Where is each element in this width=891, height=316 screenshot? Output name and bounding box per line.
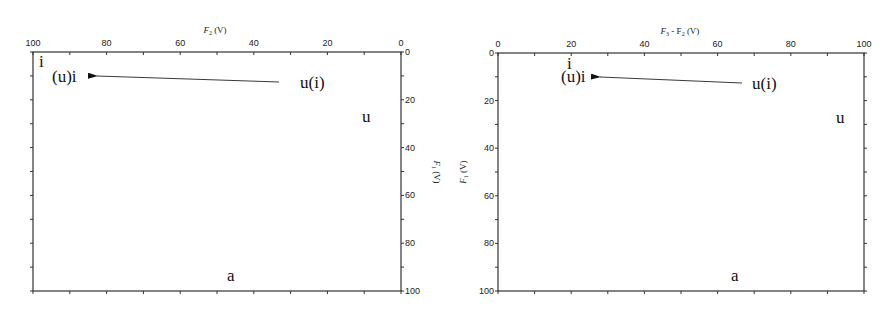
tick-label: 100 bbox=[25, 38, 40, 48]
tick-label: 20 bbox=[405, 95, 415, 105]
tick-label: 40 bbox=[249, 38, 259, 48]
tick-label: 80 bbox=[102, 38, 112, 48]
right-label-a: a bbox=[731, 266, 739, 285]
right-top-axis-title: F3 - F2 (V) bbox=[660, 26, 700, 37]
tick-label: 60 bbox=[713, 39, 723, 49]
tick-label: 0 bbox=[398, 38, 403, 48]
right-arrow bbox=[600, 77, 742, 83]
left-label-target: (u)i bbox=[52, 67, 77, 86]
left-label-u: u bbox=[362, 107, 371, 126]
left-panel: 100 80 60 40 20 0 F2 (V) 0 20 40 60 80 1… bbox=[25, 25, 442, 296]
left-side-axis-title: F1 (V) bbox=[431, 159, 442, 183]
tick-label: 80 bbox=[405, 238, 415, 248]
left-ticks bbox=[30, 52, 404, 294]
tick-label: 20 bbox=[484, 96, 494, 106]
tick-label: 40 bbox=[484, 143, 494, 153]
tick-label: 100 bbox=[856, 39, 871, 49]
left-top-axis-title: F2 (V) bbox=[202, 25, 226, 36]
tick-label: 60 bbox=[175, 38, 185, 48]
left-side-tick-labels: 0 20 40 60 80 100 bbox=[405, 47, 420, 296]
right-label-source: u(i) bbox=[752, 74, 777, 93]
left-top-tick-labels: 100 80 60 40 20 0 bbox=[25, 38, 403, 48]
left-label-source: u(i) bbox=[300, 73, 325, 92]
tick-label: 0 bbox=[489, 48, 494, 58]
right-label-target: (u)i bbox=[561, 67, 586, 86]
right-side-tick-labels: 0 20 40 60 80 100 bbox=[479, 48, 494, 296]
tick-label: 60 bbox=[484, 191, 494, 201]
right-label-u: u bbox=[836, 108, 845, 127]
right-panel: 0 20 40 60 80 100 F3 - F2 (V) 0 20 40 60… bbox=[458, 26, 872, 296]
tick-label: 80 bbox=[484, 238, 494, 248]
tick-label: 60 bbox=[405, 190, 415, 200]
tick-label: 20 bbox=[566, 39, 576, 49]
left-plot-frame bbox=[33, 52, 401, 291]
right-side-axis-title: F1 (V) bbox=[458, 160, 469, 184]
tick-label: 100 bbox=[405, 286, 420, 296]
tick-label: 0 bbox=[495, 39, 500, 49]
left-label-i: i bbox=[39, 52, 44, 71]
tick-label: 20 bbox=[322, 38, 332, 48]
diagram-canvas: 100 80 60 40 20 0 F2 (V) 0 20 40 60 80 1… bbox=[0, 0, 891, 316]
tick-label: 0 bbox=[405, 47, 410, 57]
tick-label: 100 bbox=[479, 286, 494, 296]
right-ticks bbox=[495, 53, 867, 294]
right-top-tick-labels: 0 20 40 60 80 100 bbox=[495, 39, 871, 49]
left-arrow bbox=[97, 76, 279, 82]
tick-label: 40 bbox=[639, 39, 649, 49]
tick-label: 40 bbox=[405, 143, 415, 153]
right-plot-frame bbox=[498, 53, 864, 291]
left-label-a: a bbox=[227, 266, 235, 285]
tick-label: 80 bbox=[786, 39, 796, 49]
